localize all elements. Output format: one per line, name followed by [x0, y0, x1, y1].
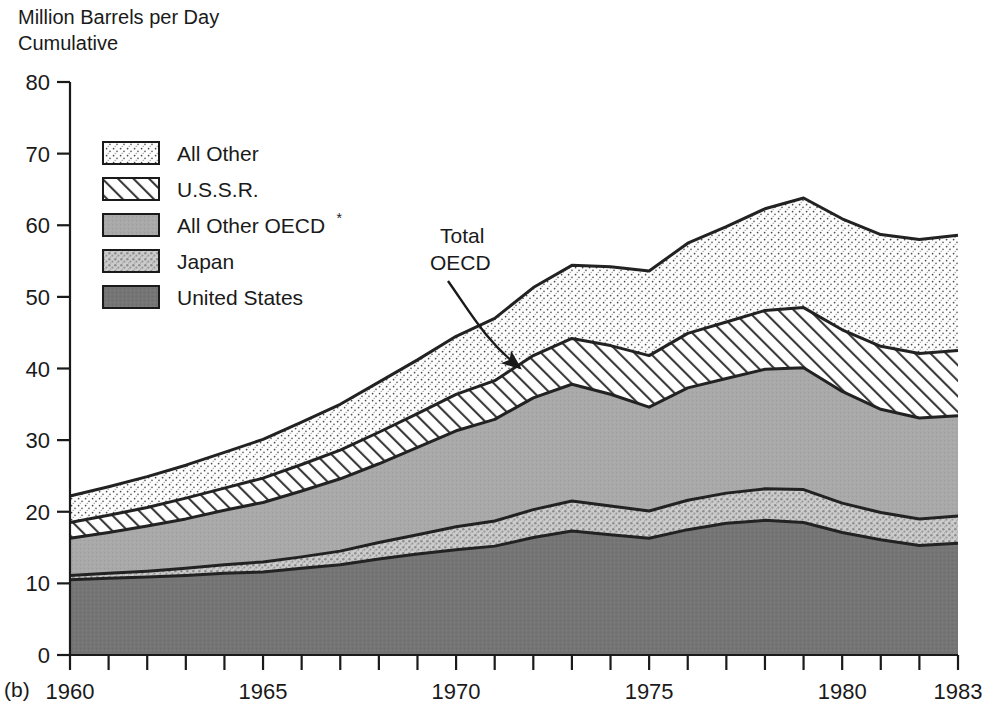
legend-swatch-coarse-speckle — [103, 250, 159, 272]
legend-label: U.S.S.R. — [177, 178, 259, 201]
legend-label-superscript: * — [337, 210, 343, 226]
legend-swatch-solid-dark — [103, 286, 159, 308]
y-tick-label-0: 0 — [38, 643, 50, 668]
legend-item-united-states[interactable]: United States — [103, 286, 303, 309]
y-tick-label-40: 40 — [26, 357, 50, 382]
annotation-line1: Total — [440, 224, 484, 247]
legend-label: United States — [177, 286, 303, 309]
legend-swatch-diagonal-hatch — [103, 178, 159, 200]
panel-label: (b) — [4, 678, 30, 701]
y-tick-label-30: 30 — [26, 428, 50, 453]
legend-swatch-solid-gray — [103, 214, 159, 236]
y-tick-labels-group: 01020304050607080 — [26, 70, 50, 668]
legend-swatch-fine-dots — [103, 142, 159, 164]
y-tick-label-10: 10 — [26, 571, 50, 596]
y-tick-label-60: 60 — [26, 213, 50, 238]
y-tick-label-80: 80 — [26, 70, 50, 95]
y-tick-label-20: 20 — [26, 500, 50, 525]
legend-label: Japan — [177, 250, 234, 273]
axis-title-line2: Cumulative — [18, 32, 118, 54]
stacked-area-chart-figure: Million Barrels per Day Cumulative (b) 0… — [0, 0, 996, 726]
x-tick-label-1965: 1965 — [239, 679, 288, 704]
annotation-line2: OECD — [430, 251, 491, 274]
legend-label: All Other — [177, 142, 259, 165]
x-tick-label-1960: 1960 — [46, 679, 95, 704]
axis-title-line1: Million Barrels per Day — [18, 6, 219, 28]
x-tick-label-1975: 1975 — [625, 679, 674, 704]
y-tick-label-50: 50 — [26, 285, 50, 310]
x-tick-label-1983: 1983 — [934, 679, 983, 704]
x-tick-label-1980: 1980 — [818, 679, 867, 704]
y-tick-label-70: 70 — [26, 142, 50, 167]
legend-label: All Other OECD — [177, 214, 325, 237]
legend-item-all-other[interactable]: All Other — [103, 142, 259, 165]
legend-item-all-other-oecd[interactable]: All Other OECD* — [103, 210, 343, 237]
x-tick-label-1970: 1970 — [432, 679, 481, 704]
legend-item-u-s-s-r[interactable]: U.S.S.R. — [103, 178, 259, 201]
